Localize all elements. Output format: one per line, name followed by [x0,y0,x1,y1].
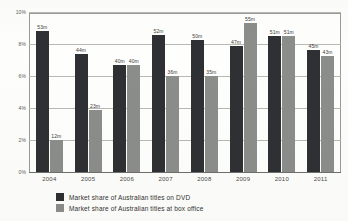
bar-slot: 35m [205,14,218,172]
bar[interactable]: 40m [113,65,126,172]
bar-slot: 53m [36,14,49,172]
bar-value-label: 40m [129,58,139,64]
bar-value-label: 40m [115,58,125,64]
bar-value-label: 55m [245,16,255,22]
bars-layer: 53m12m44m23m40m40m52m36m50m35m47m55m51m5… [30,14,340,172]
bar[interactable]: 53m [36,31,49,172]
bar-slot: 51m [268,14,281,172]
bar-group: 52m36m [146,14,185,172]
bar-value-label: 51m [270,29,280,35]
bar-slot: 52m [152,14,165,172]
bar-value-label: 43m [323,49,333,55]
legend-color-swatch [56,204,64,212]
y-axis-tick-label: 2% [19,137,26,143]
chart-screenshot: 10%8%6%4%2%0% 53m12m44m23m40m40m52m36m50… [0,0,348,221]
x-axis-tick-label: 2005 [69,176,108,182]
bar-slot: 23m [89,14,102,172]
bar-group: 47m55m [224,14,263,172]
x-axis-tick-label: 2010 [263,176,302,182]
bar-group: 45m43m [301,14,340,172]
bar-value-label: 51m [284,29,294,35]
bar-slot: 43m [321,14,334,172]
bar[interactable]: 36m [166,76,179,172]
bar[interactable]: 50m [191,40,204,172]
bar-slot: 36m [166,14,179,172]
x-axis-tick-label: 2006 [108,176,147,182]
bar-group: 40m40m [108,14,147,172]
x-axis-tick-label: 2009 [224,176,263,182]
bar-slot: 55m [244,14,257,172]
y-axis-tick-label: 10% [16,9,26,15]
bar-value-label: 23m [90,103,100,109]
legend-item[interactable]: Market share of Australian titles at box… [56,203,203,213]
x-axis-tick-label: 2007 [146,176,185,182]
gridline: 0% [29,172,341,173]
x-axis-tick-label: 2004 [30,176,69,182]
bar-group: 44m23m [69,14,108,172]
bar[interactable]: 35m [205,76,218,172]
x-axis-tick-label: 2008 [185,176,224,182]
bar-group: 51m51m [263,14,302,172]
bar-slot: 40m [113,14,126,172]
bar-slot: 44m [75,14,88,172]
bar[interactable]: 44m [75,54,88,173]
bar-value-label: 35m [206,69,216,75]
gridline: 10% [29,12,341,13]
bar[interactable]: 45m [307,50,320,172]
bar-slot: 51m [282,14,295,172]
bar-slot: 40m [127,14,140,172]
bar-slot: 12m [50,14,63,172]
bar[interactable]: 12m [50,140,63,172]
bar[interactable]: 51m [282,36,295,172]
bar[interactable]: 43m [321,56,334,172]
legend-item-label: Market share of Australian titles at box… [69,205,203,212]
bar-slot: 45m [307,14,320,172]
legend-item-label: Market share of Australian titles on DVD [69,194,190,201]
bar[interactable]: 52m [152,35,165,172]
bar-value-label: 50m [192,33,202,39]
bar-value-label: 36m [168,69,178,75]
bar-group: 53m12m [30,14,69,172]
bar-value-label: 53m [37,24,47,30]
y-axis-tick-label: 4% [19,105,26,111]
bar[interactable]: 40m [127,65,140,172]
y-axis-tick-label: 6% [19,73,26,79]
bar-value-label: 47m [231,39,241,45]
x-axis-tick-labels: 20042005200620072008200920102011 [30,176,340,182]
chart-legend: Market share of Australian titles on DVD… [56,192,203,214]
y-axis-tick-label: 8% [19,41,26,47]
bar[interactable]: 51m [268,36,281,172]
bar-value-label: 45m [309,43,319,49]
bar-group: 50m35m [185,14,224,172]
bar[interactable]: 55m [244,23,257,172]
legend-color-swatch [56,193,64,201]
bar[interactable]: 47m [230,46,243,172]
bar-slot: 47m [230,14,243,172]
y-axis-tick-label: 0% [19,169,26,175]
bar-slot: 50m [191,14,204,172]
bar[interactable]: 23m [89,110,102,172]
chart-plot-area: 10%8%6%4%2%0% 53m12m44m23m40m40m52m36m50… [29,13,341,173]
bar-value-label: 12m [51,133,61,139]
x-axis-tick-label: 2011 [301,176,340,182]
bar-value-label: 52m [154,28,164,34]
legend-item[interactable]: Market share of Australian titles on DVD [56,192,203,202]
bar-value-label: 44m [76,47,86,53]
